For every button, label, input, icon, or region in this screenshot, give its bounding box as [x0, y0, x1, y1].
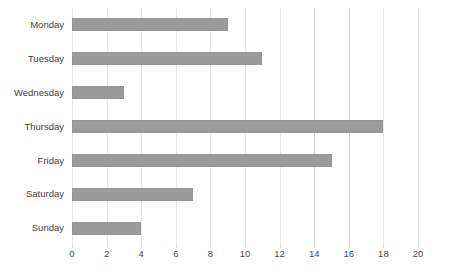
x-axis-tick-label: 12: [274, 249, 285, 259]
x-axis-tick-labels: 02468101214161820: [72, 249, 418, 265]
bar: [72, 18, 228, 31]
x-axis-tick-label: 14: [309, 249, 320, 259]
x-axis-tick-label: 16: [344, 249, 355, 259]
category-label: Wednesday: [0, 88, 64, 98]
x-axis-tick-mark: [314, 245, 315, 248]
x-axis-tick-mark: [245, 245, 246, 248]
category-label: Monday: [0, 20, 64, 30]
bar: [72, 222, 141, 235]
bar: [72, 154, 332, 167]
plot-area: MondayTuesdayWednesdayThursdayFridaySatu…: [72, 8, 418, 245]
x-axis-tick-label: 8: [208, 249, 213, 259]
category-label: Tuesday: [0, 54, 64, 64]
bar-row: Monday: [72, 8, 418, 42]
gridline: [418, 8, 419, 245]
bar: [72, 188, 193, 201]
x-axis-tick-mark: [210, 245, 211, 248]
bar: [72, 52, 262, 65]
bar: [72, 86, 124, 99]
category-label: Friday: [0, 156, 64, 166]
category-label: Sunday: [0, 223, 64, 233]
x-axis-tick-mark: [72, 245, 73, 248]
x-axis-tick-label: 2: [104, 249, 109, 259]
x-axis-tick-label: 10: [240, 249, 251, 259]
bar-row: Tuesday: [72, 42, 418, 76]
x-axis-tick-label: 20: [413, 249, 424, 259]
bar-row: Saturday: [72, 177, 418, 211]
x-axis-tick-mark: [280, 245, 281, 248]
x-axis-tick-mark: [176, 245, 177, 248]
x-axis-tick-mark: [107, 245, 108, 248]
category-label: Thursday: [0, 122, 64, 132]
bar-row: Thursday: [72, 110, 418, 144]
bar-chart: MondayTuesdayWednesdayThursdayFridaySatu…: [0, 0, 460, 275]
x-axis-tick-mark: [141, 245, 142, 248]
bar-row: Wednesday: [72, 76, 418, 110]
x-axis-tick-label: 18: [378, 249, 389, 259]
x-axis-tick-mark: [383, 245, 384, 248]
bar-row: Friday: [72, 143, 418, 177]
x-axis-tick-label: 6: [173, 249, 178, 259]
x-axis-tick-label: 4: [139, 249, 144, 259]
x-axis-tick-label: 0: [69, 249, 74, 259]
x-axis-tick-mark: [418, 245, 419, 248]
x-axis-tick-mark: [349, 245, 350, 248]
category-label: Saturday: [0, 189, 64, 199]
bar: [72, 120, 383, 133]
bar-row: Sunday: [72, 211, 418, 245]
